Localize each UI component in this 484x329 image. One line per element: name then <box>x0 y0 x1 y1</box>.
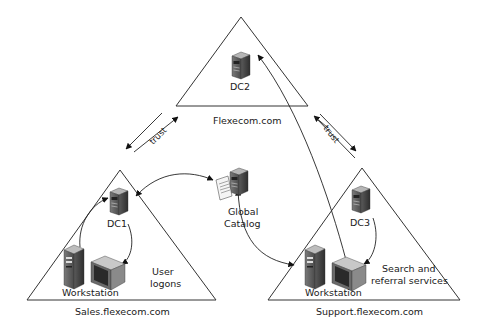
domain-label-sales: Sales.flexecom.com <box>75 306 170 317</box>
sales-workstation-label: Workstation <box>62 287 119 298</box>
sales-note-line2: logons <box>150 278 181 289</box>
support-workstation-monitor-icon <box>332 257 366 291</box>
support-note-line1: Search and <box>382 263 436 274</box>
support-workstation-label: Workstation <box>305 287 362 298</box>
trust-arrow-sales <box>126 113 178 152</box>
domain-label-support: Support.flexecom.com <box>316 306 423 317</box>
sales-workstation-dc1-connector <box>80 198 108 247</box>
sales-workstation-tower-icon <box>64 245 84 289</box>
sales-dc1-workstation-connector <box>122 224 132 264</box>
sales-workstation-monitor-icon <box>91 256 125 290</box>
trust-label-sales: trust <box>147 125 169 147</box>
dc2-label: DC2 <box>230 81 250 92</box>
domain-trust-diagram: trust trust DC2 Flexecom.com Global Cata… <box>0 0 484 329</box>
dc3-server-icon <box>352 186 370 213</box>
domain-label-flexecom: Flexecom.com <box>213 115 282 126</box>
dc2-server-icon <box>232 52 250 79</box>
support-note-line2: referral services <box>371 275 448 286</box>
global-catalog-label-line1: Global <box>228 206 258 217</box>
dc1-gc-connector <box>136 174 213 196</box>
dc1-server-icon <box>110 188 128 215</box>
support-workstation-tower-icon <box>305 245 325 289</box>
global-catalog-icon <box>216 168 248 200</box>
referral-connector <box>258 55 346 260</box>
sales-note-line1: User <box>152 266 174 277</box>
dc1-label: DC1 <box>107 218 127 229</box>
dc3-label: DC3 <box>350 217 370 228</box>
global-catalog-label-line2: Catalog <box>224 218 260 229</box>
